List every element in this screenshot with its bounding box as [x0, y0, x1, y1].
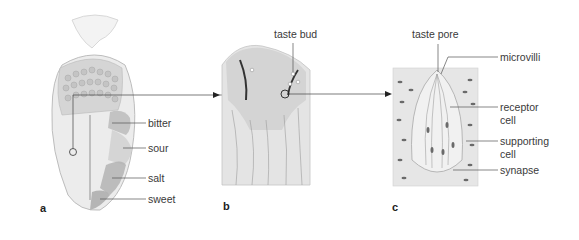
taste-bud-illustration	[393, 44, 498, 186]
label-sweet: sweet	[148, 193, 175, 205]
label-supporting-line2: cell	[500, 148, 516, 160]
label-microvilli: microvilli	[500, 51, 540, 63]
label-taste-pore: taste pore	[412, 28, 459, 40]
panel-letter-a: a	[40, 202, 46, 214]
label-sour: sour	[148, 142, 168, 154]
label-receptor-line2: cell	[500, 114, 516, 126]
label-salt: salt	[148, 172, 164, 184]
label-synapse: synapse	[500, 164, 539, 176]
label-bitter: bitter	[148, 117, 171, 129]
panel-letter-c: c	[392, 201, 398, 213]
panel-letter-b: b	[223, 200, 230, 212]
label-supporting-line1: supporting	[500, 135, 549, 147]
papilla-illustration	[213, 43, 392, 185]
label-receptor-line1: receptor	[500, 101, 539, 113]
label-taste-bud: taste bud	[274, 28, 317, 40]
